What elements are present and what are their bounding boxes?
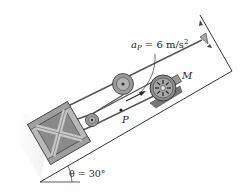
- pulley-incline-diagram: aP = 6 m/s2 P M θ = 30°: [0, 0, 246, 195]
- motor-label: M: [181, 70, 193, 81]
- acceleration-label: aP = 6 m/s2: [131, 38, 188, 52]
- angle-label: θ = 30°: [69, 168, 106, 179]
- lower-pulley: [86, 114, 99, 127]
- point-p-dot: [119, 108, 122, 111]
- upper-pulley: [113, 74, 134, 95]
- point-p-label: P: [121, 114, 129, 125]
